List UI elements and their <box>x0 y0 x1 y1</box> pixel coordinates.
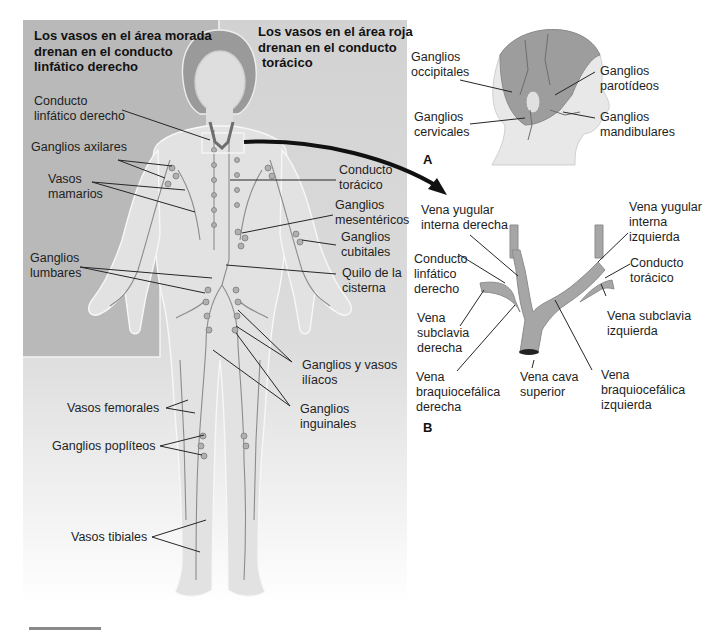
label-ganglios-vasos-iliacos: Ganglios y vasos ilíacos <box>302 358 397 388</box>
label-vasos-mamarios: Vasos mamarios <box>48 172 103 202</box>
label-ganglios-cubitales: Ganglios cubitales <box>341 230 390 260</box>
label-vena-subclavia-derecha: Vena subclavia derecha <box>417 311 469 356</box>
label-vena-yugular-interna-izquierda: Vena yugular interna izquierda <box>629 200 702 245</box>
label-vena-cava-superior: Vena cava superior <box>520 370 578 400</box>
label-vena-subclavia-izquierda: Vena subclavia izquierda <box>607 309 691 339</box>
header-purple-area: Los vasos en el área morada drenan en el… <box>34 28 212 75</box>
label-quilo-cisterna: Quilo de la cisterna <box>342 266 402 296</box>
label-ganglios-mandibulares: Ganglios mandibulares <box>600 110 675 140</box>
panel-a-head <box>492 29 609 165</box>
panel-a-letter: A <box>423 152 432 167</box>
label-ganglios-cervicales: Ganglios cervicales <box>414 110 470 140</box>
label-ganglios-mesentericos: Ganglios mesentéricos <box>335 198 409 228</box>
label-ganglios-parotideos: Ganglios parotídeos <box>600 64 659 94</box>
label-vena-yugular-interna-derecha: Vena yugular interna derecha <box>421 203 508 233</box>
label-ganglios-lumbares: Ganglios lumbares <box>30 251 81 281</box>
label-vasos-femorales: Vasos femorales <box>67 401 159 416</box>
label-ganglios-popliteos: Ganglios poplíteos <box>52 439 156 454</box>
header-red-area: Los vasos en el área roja drenan en el c… <box>258 24 413 71</box>
label-conducto-toracico: Conducto torácico <box>339 163 393 193</box>
label-ganglios-axilares: Ganglios axilares <box>31 140 127 155</box>
panel-b-letter: B <box>423 420 432 435</box>
label-vena-braquiocefalica-izquierda: Vena braquiocefálica izquierda <box>601 368 685 413</box>
label-vasos-tibiales: Vasos tibiales <box>71 530 147 545</box>
label-ganglios-inguinales: Ganglios inguinales <box>300 402 356 432</box>
label-vena-braquiocefalica-derecha: Vena braquiocefálica derecha <box>416 370 500 415</box>
label-conducto-linfatico-derecho-b: Conducto linfático derecho <box>414 252 468 297</box>
label-conducto-toracico-b: Conducto torácico <box>630 256 684 286</box>
panel-b-veins <box>480 225 614 355</box>
panel-b-leader-lines <box>457 233 630 371</box>
label-conducto-linfatico-derecho: Conducto linfático derecho <box>34 94 125 124</box>
label-ganglios-occipitales: Ganglios occipitales <box>411 50 469 80</box>
bottom-rule <box>29 627 101 630</box>
